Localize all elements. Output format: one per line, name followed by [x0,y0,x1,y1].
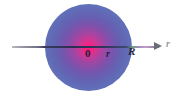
radial-axis-arrowhead-icon [154,42,162,50]
axis-variable-label: r [166,39,170,49]
figure-canvas: 0 r R r [0,0,176,94]
sphere-radius-label: R [128,46,135,57]
inner-radius-label: r [106,49,110,59]
origin-label: 0 [85,48,91,59]
